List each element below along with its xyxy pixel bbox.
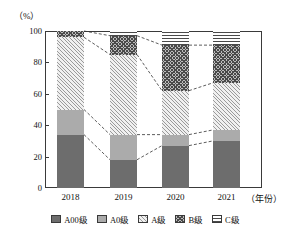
bar-segment-C级[interactable] [162, 31, 189, 45]
legend-item-B级[interactable]: B级 [175, 213, 203, 225]
bar-segment-B级[interactable] [213, 45, 240, 83]
bar-segment-B级[interactable] [110, 36, 137, 55]
y-axis-tick-mark [45, 62, 49, 63]
bar-column-2020[interactable] [162, 31, 189, 188]
bar-segment-A级[interactable] [213, 83, 240, 130]
bar-segment-A级[interactable] [162, 91, 189, 135]
x-axis-tick-label-2019: 2019 [101, 192, 147, 202]
stacked-bar-chart: （%） 100806040200 2018201920202021 （年份） A… [0, 0, 291, 240]
y-axis-tick-mark [45, 94, 49, 95]
y-axis-tick-label: 100 [0, 27, 42, 36]
bar-segment-A0级[interactable] [57, 110, 84, 135]
y-axis-tick-label: 0 [0, 184, 42, 193]
legend-swatch-icon [212, 215, 222, 223]
legend-item-A00级[interactable]: A00级 [51, 213, 88, 225]
bar-segment-A级[interactable] [57, 37, 84, 109]
x-axis-tick-label-2018: 2018 [48, 192, 94, 202]
y-axis-tick-label: 60 [0, 90, 42, 99]
bar-segment-B级[interactable] [162, 45, 189, 91]
y-axis-tick-label: 40 [0, 121, 42, 130]
y-axis-tick-label: 20 [0, 153, 42, 162]
bar-segment-A00级[interactable] [162, 146, 189, 188]
legend-label: A00级 [64, 213, 88, 225]
y-axis-tick-label: 80 [0, 58, 42, 67]
bar-segment-A0级[interactable] [162, 135, 189, 146]
y-axis-tick-mark [45, 157, 49, 158]
chart-legend: A00级A0级A级B级C级 [0, 213, 291, 225]
legend-item-A级[interactable]: A级 [138, 213, 166, 225]
legend-label: C级 [225, 213, 240, 225]
legend-swatch-icon [175, 215, 185, 223]
legend-swatch-icon [97, 215, 107, 223]
y-axis-tick-mark [45, 125, 49, 126]
x-axis-tick-label-2021: 2021 [204, 192, 250, 202]
bar-segment-A00级[interactable] [57, 135, 84, 188]
legend-swatch-icon [51, 215, 61, 223]
bar-segment-A00级[interactable] [110, 160, 137, 188]
legend-label: A0级 [110, 213, 129, 225]
legend-item-C级[interactable]: C级 [212, 213, 240, 225]
bar-segment-A0级[interactable] [110, 135, 137, 160]
bar-segment-A0级[interactable] [213, 130, 240, 141]
x-axis-tick-label-2020: 2020 [153, 192, 199, 202]
bar-column-2018[interactable] [57, 31, 84, 188]
bar-segment-A00级[interactable] [213, 141, 240, 188]
bar-segment-C级[interactable] [213, 31, 240, 45]
bar-column-2021[interactable] [213, 31, 240, 188]
legend-label: A级 [151, 213, 166, 225]
bar-column-2019[interactable] [110, 31, 137, 188]
bar-segment-A级[interactable] [110, 55, 137, 135]
legend-label: B级 [188, 213, 203, 225]
y-axis-unit-label: （%） [14, 9, 40, 22]
x-axis-title: （年份） [246, 192, 282, 205]
legend-item-A0级[interactable]: A0级 [97, 213, 129, 225]
legend-swatch-icon [138, 215, 148, 223]
